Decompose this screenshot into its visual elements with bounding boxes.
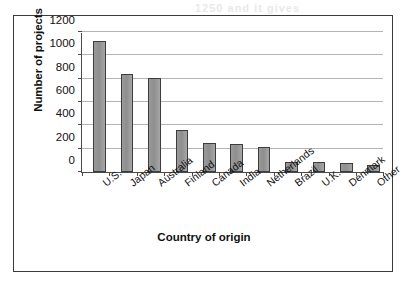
bar-australia[interactable] <box>148 78 161 172</box>
scan-artifact-text: 1250 and it gives <box>195 2 300 14</box>
y-tick-label: 200 <box>56 131 75 143</box>
x-tick-mark <box>82 172 83 176</box>
y-tick-label: 1000 <box>49 37 75 49</box>
y-tick-label: 800 <box>56 61 75 73</box>
figure-frame: Number of projects 1200 1000 800 600 400… <box>13 15 393 272</box>
y-tick-mark <box>78 31 82 32</box>
y-tick-label: 400 <box>56 107 75 119</box>
y-tick-label: 0 <box>69 154 75 166</box>
y-axis-title: Number of projects <box>32 0 44 130</box>
bar-netherlands[interactable] <box>258 147 271 172</box>
bar-us[interactable] <box>93 41 106 172</box>
gridline <box>82 31 383 32</box>
plot-area: 1200 1000 800 600 400 200 0 <box>81 33 383 173</box>
x-axis-title: Country of origin <box>14 231 394 243</box>
bar-japan[interactable] <box>121 74 134 172</box>
bar-series <box>82 33 383 172</box>
bar-denmark[interactable] <box>340 163 353 172</box>
y-tick-label: 1200 <box>49 14 75 26</box>
y-tick-label: 600 <box>56 84 75 96</box>
